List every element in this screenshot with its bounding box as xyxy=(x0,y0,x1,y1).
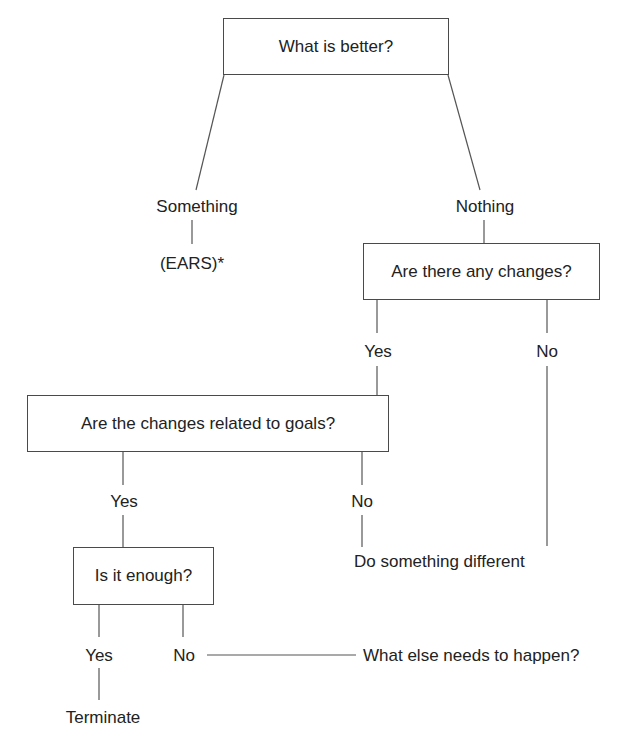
nothing-label: Nothing xyxy=(456,198,515,215)
any-changes-label: Are there any changes? xyxy=(391,262,572,282)
enough-no-label: No xyxy=(173,647,195,664)
do-something-different-label: Do something different xyxy=(354,553,525,570)
what-else-label: What else needs to happen? xyxy=(363,647,579,664)
terminate-label: Terminate xyxy=(66,709,141,726)
connector-lines xyxy=(0,0,635,746)
enough-yes-label: Yes xyxy=(85,647,113,664)
changes-no-label: No xyxy=(536,343,558,360)
ears-label: (EARS)* xyxy=(160,255,224,272)
root-question-box: What is better? xyxy=(223,18,449,75)
is-it-enough-label: Is it enough? xyxy=(95,566,192,586)
root-question-label: What is better? xyxy=(279,37,393,57)
changes-yes-label: Yes xyxy=(364,343,392,360)
any-changes-box: Are there any changes? xyxy=(363,243,600,300)
goals-question-box: Are the changes related to goals? xyxy=(27,395,389,452)
goals-question-label: Are the changes related to goals? xyxy=(81,414,335,434)
goals-yes-label: Yes xyxy=(110,493,138,510)
is-it-enough-box: Is it enough? xyxy=(73,547,214,605)
goals-no-label: No xyxy=(351,493,373,510)
something-label: Something xyxy=(156,198,237,215)
